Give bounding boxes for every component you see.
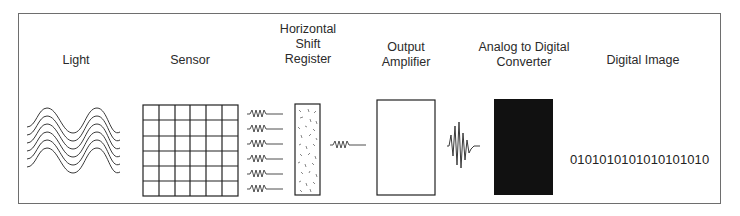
binary-digits-icon: 0101010101010101010	[570, 152, 709, 167]
diagram-graphics	[0, 0, 740, 216]
light-waves-icon	[27, 108, 120, 173]
adc-black-box-icon	[494, 99, 553, 195]
analog-signal-burst	[447, 122, 480, 168]
shift-register-icon	[295, 104, 320, 195]
amplifier-box-icon	[377, 100, 435, 195]
sensor-grid-icon	[143, 105, 238, 196]
register-input-signals	[247, 110, 283, 192]
register-output-signal	[330, 141, 366, 148]
